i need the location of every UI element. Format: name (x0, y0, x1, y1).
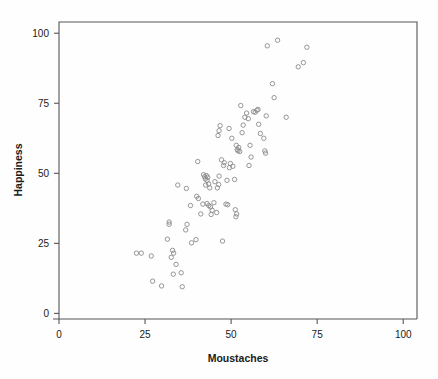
y-tick-label: 0 (43, 308, 49, 319)
x-tick-label: 25 (139, 329, 151, 340)
y-tick-label: 100 (32, 28, 49, 39)
y-axis-title: Happiness (12, 143, 24, 196)
x-tick-label: 50 (226, 329, 238, 340)
x-axis-title: Moustaches (208, 352, 269, 364)
y-tick-label: 50 (38, 168, 50, 179)
scatter-plot-svg: 0255075100 0255075100 Moustaches Happine… (0, 0, 438, 379)
x-tick-label: 100 (395, 329, 412, 340)
x-tick-label: 75 (312, 329, 324, 340)
y-tick-label: 25 (38, 238, 50, 249)
y-tick-label: 75 (38, 98, 50, 109)
x-tick-label: 0 (56, 329, 62, 340)
scatter-plot-figure: 0255075100 0255075100 Moustaches Happine… (0, 0, 438, 379)
